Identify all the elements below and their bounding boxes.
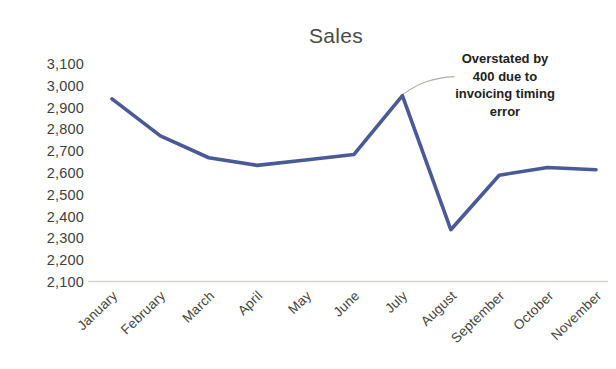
x-axis-tick-label: January: [74, 288, 120, 333]
x-axis-tick-label: February: [118, 288, 168, 337]
x-axis-tick-label: October: [510, 288, 556, 333]
annotation-line: 400 due to: [432, 68, 578, 86]
x-axis-tick-label: March: [179, 288, 217, 326]
sales-line-chart: Sales 3,1003,0002,9002,8002,7002,6002,50…: [0, 0, 616, 369]
annotation-line: Overstated by: [432, 50, 578, 68]
x-axis-tick-label: July: [383, 288, 411, 316]
x-axis-tick-label: May: [285, 288, 314, 317]
x-axis-tick-label: June: [330, 288, 362, 320]
x-axis-tick-label: April: [235, 288, 266, 318]
annotation-callout: Overstated by400 due toinvoicing timinge…: [432, 50, 578, 120]
x-axis-tick-label: November: [548, 288, 604, 343]
annotation-line: invoicing timing: [432, 85, 578, 103]
x-axis-tick-label: August: [418, 288, 460, 329]
annotation-line: error: [432, 103, 578, 121]
